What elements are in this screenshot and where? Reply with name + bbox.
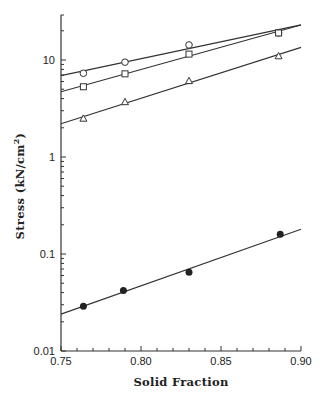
marker-open-square <box>122 71 128 77</box>
fit-line-open-circle <box>61 25 301 76</box>
y-tick-label: 10 <box>43 54 55 66</box>
fit-line-filled-circle <box>61 229 301 314</box>
marker-open-triangle <box>122 98 129 104</box>
marker-open-square <box>276 30 282 36</box>
chart: 0.010.11100.750.800.850.90 Solid Fractio… <box>0 0 325 396</box>
marker-open-triangle <box>186 77 193 83</box>
marker-open-square <box>80 84 86 90</box>
marker-open-circle <box>80 70 87 77</box>
marker-open-circle <box>186 42 193 49</box>
marker-open-square <box>186 51 192 57</box>
y-tick-label: 1 <box>49 151 55 163</box>
data-markers <box>80 30 284 310</box>
x-tick-label: 0.85 <box>210 355 231 367</box>
x-axis-title: Solid Fraction <box>133 375 228 389</box>
y-axis-title: Stress (kN/cm2) <box>11 133 27 240</box>
x-tick-label: 0.90 <box>290 355 311 367</box>
axes: 0.010.11100.750.800.850.90 <box>34 15 312 367</box>
fit-lines <box>61 25 301 314</box>
marker-open-circle <box>122 59 129 66</box>
marker-filled-circle <box>120 287 127 294</box>
y-tick-label: 0.1 <box>40 248 55 260</box>
marker-filled-circle <box>186 269 193 276</box>
marker-filled-circle <box>80 303 87 310</box>
x-tick-label: 0.75 <box>50 355 71 367</box>
marker-filled-circle <box>277 231 284 238</box>
x-tick-label: 0.80 <box>130 355 151 367</box>
